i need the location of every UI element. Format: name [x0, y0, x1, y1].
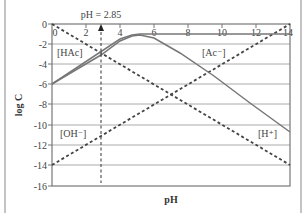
label-oh: [OH⁻] [60, 128, 86, 139]
svg-text:-6: -6 [39, 79, 47, 90]
svg-text:-10: -10 [34, 120, 47, 131]
y-axis-title: log C [13, 94, 24, 117]
svg-text:-4: -4 [39, 59, 47, 70]
ph-marker-arrow-icon [98, 24, 104, 31]
svg-text:4: 4 [118, 27, 123, 38]
svg-text:-12: -12 [34, 140, 47, 151]
y-tick-labels: 0 -2 -4 -6 -8 -10 -12 -14 -16 [34, 19, 47, 192]
x-axis-title: pH [164, 194, 178, 205]
svg-text:14: 14 [283, 27, 293, 38]
svg-text:12: 12 [251, 27, 261, 38]
svg-text:-16: -16 [34, 181, 47, 192]
svg-text:10: 10 [217, 27, 227, 38]
svg-text:-8: -8 [39, 99, 47, 110]
label-ac: [Ac⁻] [202, 47, 226, 58]
svg-text:0: 0 [53, 27, 58, 38]
svg-text:6: 6 [152, 27, 157, 38]
svg-text:8: 8 [186, 27, 191, 38]
svg-text:0: 0 [42, 19, 47, 30]
label-hac: [HAc] [57, 47, 83, 58]
chart: 0 -2 -4 -6 -8 -10 -12 -14 -16 0 2 4 6 8 … [0, 0, 306, 213]
svg-text:-2: -2 [39, 39, 47, 50]
svg-text:-14: -14 [34, 160, 47, 171]
label-h: [H⁺] [258, 128, 277, 139]
svg-text:2: 2 [84, 27, 89, 38]
ph-marker-label: pH = 2.85 [81, 9, 121, 20]
series-ac-line [52, 34, 290, 84]
x-tick-labels: 0 2 4 6 8 10 12 14 [53, 27, 294, 38]
